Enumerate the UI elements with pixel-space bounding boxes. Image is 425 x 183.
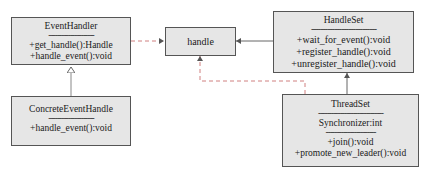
method: +promote_new_leader():void (283, 148, 418, 159)
method: +unregister_handle():void (274, 58, 413, 70)
class-name: ThreadSet (283, 99, 418, 110)
class-name: HandleSet (274, 14, 413, 26)
method: +handle_event():void (12, 51, 130, 62)
attribute: Synchronizer:int (283, 118, 418, 129)
separator: ---------------------------- (274, 26, 413, 34)
class-name: ConcreteEventHandle (12, 104, 130, 115)
class-handle-set[interactable]: HandleSet ---------------------------- +… (273, 11, 414, 73)
class-handle[interactable]: handle (165, 27, 236, 56)
separator: --------------------- (12, 115, 130, 123)
class-event-handler[interactable]: EventHandler --------------------- +get_… (11, 17, 131, 65)
class-thread-set[interactable]: ThreadSet ------------------------------… (282, 94, 419, 167)
class-name: EventHandler (12, 21, 130, 32)
method: +register_handle():void (274, 46, 413, 58)
method: +join():void (283, 137, 418, 148)
separator: ------------------------------ (283, 110, 418, 118)
class-concrete-event-handle[interactable]: ConcreteEventHandle --------------------… (11, 96, 131, 146)
separator: ----------------------- (283, 129, 418, 137)
class-name: handle (187, 36, 214, 47)
method: +wait_for_event():void (274, 34, 413, 46)
method: +handle_event():void (12, 123, 130, 134)
method: +get_handle():Handle (12, 40, 130, 51)
separator: --------------------- (12, 32, 130, 40)
